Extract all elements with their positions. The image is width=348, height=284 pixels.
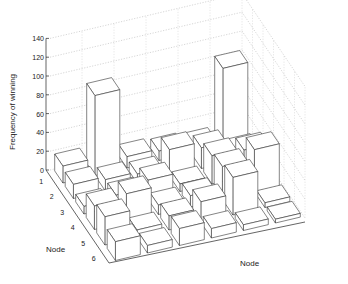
z-tick-label: 100 xyxy=(32,73,44,80)
bar3d-chart: 020406080100120140123456 Frequency of wi… xyxy=(0,0,348,284)
row-tick-label: 4 xyxy=(71,224,75,231)
z-tick-label: 0 xyxy=(40,167,44,174)
row-axis-label: Node xyxy=(46,245,66,254)
bar xyxy=(225,159,258,215)
row-tick-label: 3 xyxy=(60,209,64,216)
row-tick-label: 1 xyxy=(39,178,43,185)
z-tick-label: 60 xyxy=(36,111,44,118)
z-tick-label: 140 xyxy=(32,35,44,42)
z-tick-label: 80 xyxy=(36,92,44,99)
row-tick-label: 6 xyxy=(92,255,96,262)
bar xyxy=(171,211,204,246)
row-tick-label: 5 xyxy=(81,240,85,247)
z-tick-label: 120 xyxy=(32,54,44,61)
z-axis-label: Frequency of winning xyxy=(8,74,17,150)
bar xyxy=(215,51,248,146)
chart-canvas: 020406080100120140123456 Frequency of wi… xyxy=(0,0,348,284)
row-tick-label: 2 xyxy=(50,193,54,200)
z-tick-label: 20 xyxy=(36,148,44,155)
bar xyxy=(87,78,120,176)
z-tick-label: 40 xyxy=(36,129,44,136)
col-axis-label: Node xyxy=(240,259,260,268)
bar xyxy=(107,224,140,261)
